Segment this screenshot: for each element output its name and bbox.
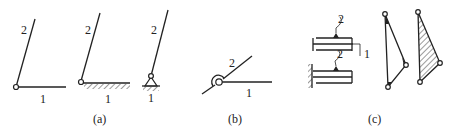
panel-c: 2 1 2 [308,10,442,126]
panel-caption-c: (c) [368,112,381,126]
link-label-1: 1 [364,47,370,61]
slider-joint-icon [333,66,339,71]
link-label-2: 2 [151,23,157,37]
link-label-1: 1 [105,92,111,106]
panel-caption-a: (a) [93,112,106,126]
link-label-2: 2 [229,56,235,70]
panel-b: 2 1 (b) [202,56,272,126]
link-label-2: 2 [338,12,344,26]
ground-hatch-icon [308,64,312,88]
slider-joint-icon [333,33,339,38]
link-label-2: 2 [337,47,343,61]
pin-joint-icon [386,85,391,90]
prismatic-pair-ground: 2 [308,47,352,88]
link-label-2: 2 [21,23,27,37]
kinematic-pair-diagram: 2 1 2 1 2 1 (a) 2 1 [0,0,454,132]
pin-joint-icon [383,12,388,17]
pin-joint-icon [14,85,19,90]
link-label-1: 1 [246,86,252,100]
revolute-pair-pivot-support: 2 1 [142,10,168,105]
ternary-link-outline [383,12,409,90]
ground-hatch-icon [84,84,130,89]
pin-joint-icon [438,61,443,66]
panel-caption-b: (b) [228,112,242,126]
pin-joint-icon [79,80,84,85]
pin-joint-icon [216,79,222,85]
revolute-pair-ground: 2 1 [79,13,131,106]
pin-joint-icon [404,63,409,68]
ternary-link-hatched [416,10,443,85]
pin-joint-icon [416,10,421,15]
panel-a: 2 1 2 1 2 1 (a) [14,10,169,126]
pin-joint-icon [149,74,154,79]
link-label-1: 1 [40,92,46,106]
link-label-1: 1 [148,91,154,105]
revolute-pair-free: 2 1 [14,19,67,106]
pin-joint-icon [418,80,423,85]
link-label-2: 2 [85,23,91,37]
